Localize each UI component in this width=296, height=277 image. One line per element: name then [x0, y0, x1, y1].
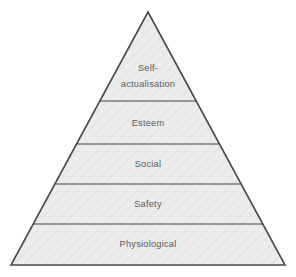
tier-safety[interactable]: Safety: [134, 199, 162, 209]
tier-label-social: Social: [135, 159, 162, 169]
tier-esteem[interactable]: Esteem: [132, 118, 165, 128]
pyramid-body: [11, 12, 285, 265]
tier-physiological[interactable]: Physiological: [120, 239, 177, 249]
tier-label-self-actualisation-line2: actualisation: [121, 79, 175, 89]
tier-label-physiological: Physiological: [120, 239, 177, 249]
tier-label-safety: Safety: [134, 199, 162, 209]
tier-social[interactable]: Social: [135, 159, 162, 169]
pyramid-diagram: Self- actualisation Esteem Social Safety…: [0, 0, 296, 277]
pyramid-figure: Self- actualisation Esteem Social Safety…: [0, 0, 296, 277]
tier-label-esteem: Esteem: [132, 118, 165, 128]
tier-label-self-actualisation-line1: Self-: [138, 63, 158, 73]
